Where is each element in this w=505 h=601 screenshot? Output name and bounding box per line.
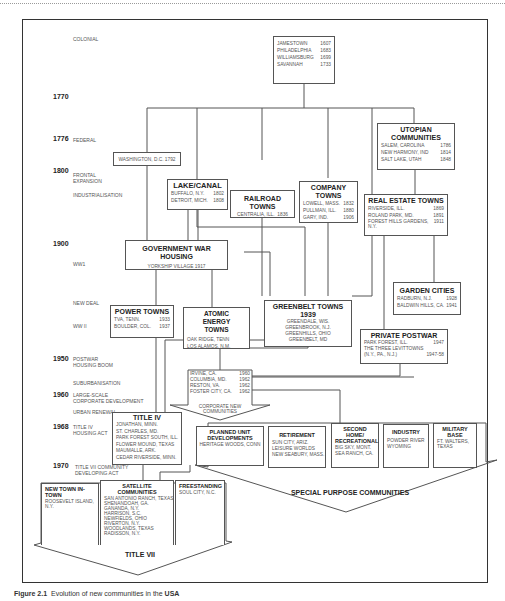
special-purpose-communities-label: SPECIAL PURPOSE COMMUNITIES xyxy=(270,489,430,496)
retirement-box: RETIREMENT SUN CITY, ARIZ. LEISURE WORLD… xyxy=(268,426,326,468)
colonial-towns-box: JAMESTOWN1607 PHILADELPHIA1683 WILLIAMSB… xyxy=(273,36,335,84)
title-vii-label: TITLE VII xyxy=(100,551,180,558)
satellite-communities-box: SATELLITE COMMUNITIES SAN ANTONIO RANCH,… xyxy=(100,480,174,545)
freestanding-box: FREESTANDING SOUL CITY, N.C. xyxy=(175,480,225,545)
year-1770: 1770 xyxy=(53,93,69,100)
era-postwar: POSTWAR HOUSING BOOM xyxy=(73,356,113,368)
year-1950: 1950 xyxy=(53,355,69,362)
greenbelt-towns-box: GREENBELT TOWNS 1939 GREENDALE, WIS. GRE… xyxy=(264,300,352,347)
era-colonial: COLONIAL xyxy=(73,36,98,42)
corporate-new-communities-label: CORPORATE NEW COMMUNITIES xyxy=(196,404,244,414)
era-large-scale: LARGE-SCALE CORPORATE DEVELOPMENT xyxy=(73,392,143,404)
era-industrialisation: INDUSTRIALISATION xyxy=(73,192,122,198)
new-town-in-town-box: NEW TOWN IN-TOWN ROOSEVELT ISLAND, N.Y. xyxy=(41,483,99,545)
private-postwar-box: PRIVATE POSTWAR PARK FOREST, ILL.1947 TH… xyxy=(360,329,448,364)
era-federal: FEDERAL xyxy=(73,137,96,143)
second-home-recreational-box: SECOND HOME/ RECREATIONAL BIG SKY, MONT.… xyxy=(331,423,379,468)
real-estate-towns-box: REAL ESTATE TOWNS RIVERSIDE, ILL.1869 RO… xyxy=(364,194,448,236)
era-new-deal: NEW DEAL xyxy=(73,300,99,306)
era-frontal-expansion: FRONTAL EXPANSION xyxy=(73,172,102,184)
government-war-housing-box: GOVERNMENT WAR HOUSING YORKSHIP VILLAGE … xyxy=(125,240,228,270)
era-urban-renewal: URBAN RENEWAL xyxy=(73,409,116,415)
power-towns-box: POWER TOWNS TVA, TENN.1933 BOULDER, COL.… xyxy=(110,305,174,338)
year-1800: 1800 xyxy=(53,167,69,174)
corporate-new-communities-list: IRVINE, CA.1960 COLUMBIA, MD.1962 RESTON… xyxy=(190,370,250,395)
year-1970: 1970 xyxy=(53,462,69,469)
year-1776: 1776 xyxy=(53,135,69,142)
year-1968: 1968 xyxy=(53,423,69,430)
era-title-iv-housing-act: TITLE IV HOUSING ACT xyxy=(73,424,107,436)
washington-box: WASHINGTON, D.C. 1792 xyxy=(113,152,181,166)
planned-unit-developments-box: PLANNED UNIT DEVELOPMENTS HERITAGE WOODS… xyxy=(196,426,264,466)
atomic-energy-towns-box: ATOMIC ENERGY TOWNS OAK RIDGE, TENN LOS … xyxy=(183,307,250,349)
company-towns-box: COMPANY TOWNS LOWELL, MASS.1832 PULLMAN,… xyxy=(299,181,358,223)
year-1960: 1960 xyxy=(53,391,69,398)
year-1900: 1900 xyxy=(53,240,69,247)
figure-caption: Figure 2.1 Evolution of new communities … xyxy=(14,590,179,597)
era-suburbanisation: SUBURBANISATION xyxy=(73,380,120,386)
lake-canal-box: LAKE/CANAL BUFFALO, N.Y.1802 DETROIT, MI… xyxy=(167,179,228,210)
industry-box: INDUSTRY POWDER RIVER WYOMING xyxy=(383,424,429,468)
military-base-box: MILITARY BASE FT. WALTERS, TEXAS xyxy=(433,423,477,468)
utopian-communities-box: UTOPIAN COMMUNITIES SALEM, CAROLINA1786 … xyxy=(377,123,455,170)
era-title-vii: TITLE VII COMMUNITY DEVELOPING ACT xyxy=(75,464,128,476)
railroad-towns-box: RAILROAD TOWNS CENTRALIA, ILL. 1836 xyxy=(230,190,295,218)
era-ww1: WW1 xyxy=(73,261,85,267)
era-ww2: WW II xyxy=(73,323,87,329)
garden-cities-box: GARDEN CITIES RADBURN, N.J.1928 BALDWIN … xyxy=(393,282,461,315)
title-iv-box: TITLE IV JONATHAN, MINN. ST. CHARLES, MD… xyxy=(112,412,182,465)
